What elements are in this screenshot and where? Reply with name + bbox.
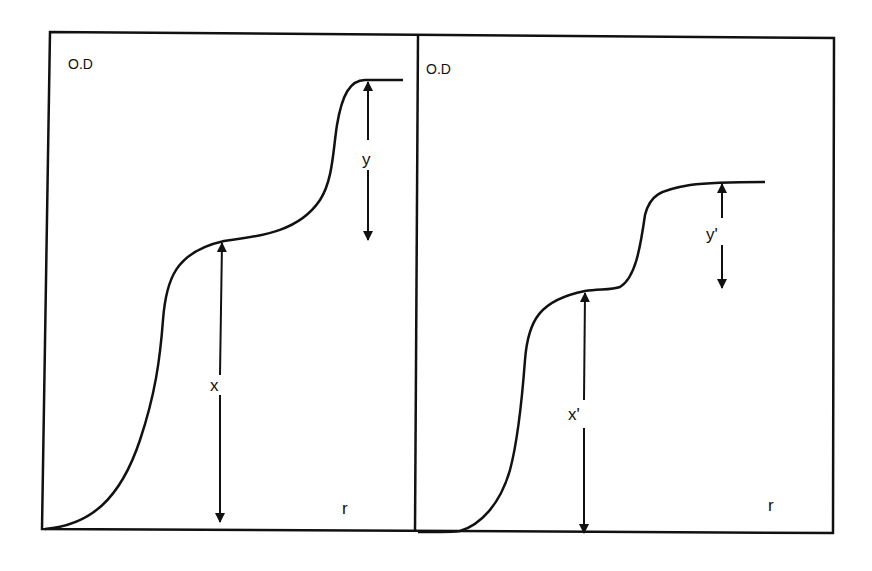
left-x-arrow-up: [220, 243, 222, 375]
left-od-curve: [45, 80, 403, 529]
left-panel: O.D r x y: [45, 56, 403, 529]
left-x-label: x: [210, 376, 219, 395]
right-x-prime-arrow-up: [584, 293, 585, 400]
right-x-axis-label: r: [768, 496, 774, 515]
right-y-axis-label: O.D: [426, 61, 451, 77]
left-y-axis-label: O.D: [68, 56, 93, 72]
right-y-prime-label: y': [706, 225, 718, 244]
right-panel: O.D r x' y': [418, 61, 774, 533]
diagram-canvas: O.D r x y O.D r x' y': [0, 0, 872, 571]
left-x-axis-label: r: [342, 499, 348, 518]
panel-divider: [415, 35, 418, 531]
outer-frame: [42, 32, 834, 533]
right-x-prime-label: x': [568, 405, 580, 424]
left-y-label: y: [362, 150, 371, 169]
